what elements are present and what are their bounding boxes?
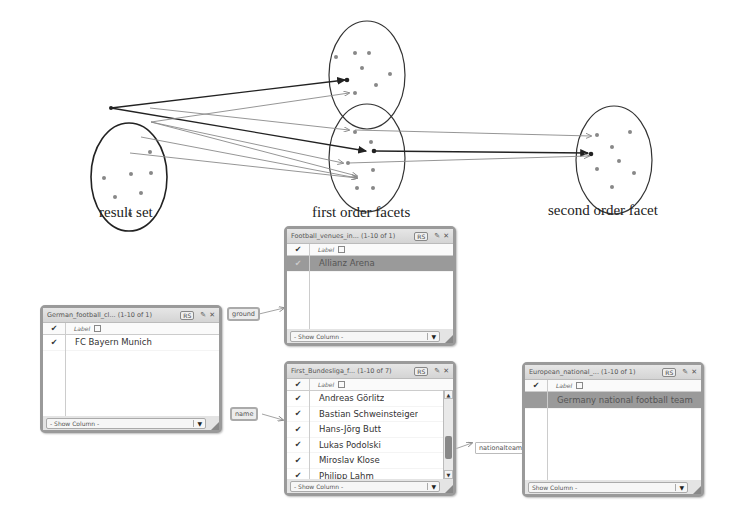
facet-footer: Show Column - ▼ [525, 480, 701, 494]
facet-list: ✔ FC Bayern Munich [43, 335, 219, 420]
chevron-down-icon: ▼ [427, 333, 436, 340]
facet-header[interactable]: German_football_cl... (1-10 of 1) RS ✎ ✕ [43, 308, 219, 323]
column-header: ✔ Label [43, 323, 219, 335]
resize-handle[interactable] [693, 486, 701, 494]
chevron-down-icon: ▼ [427, 483, 436, 490]
facet-list: Germany national football team [525, 392, 701, 485]
resize-handle[interactable] [211, 422, 219, 430]
show-column-dropdown[interactable]: - Show Column - ▼ [290, 331, 440, 342]
rs-button[interactable]: RS [180, 311, 194, 320]
facet-title: First_Bundesliga_f... (1-10 of 7) [291, 367, 411, 375]
column-label[interactable]: Label [548, 382, 572, 389]
second-order-facet-circle [576, 106, 652, 214]
check-icon[interactable]: ✔ [287, 438, 310, 453]
facet-footer: - Show Column - ▼ [287, 479, 453, 493]
list-item-selected[interactable]: Germany national football team [525, 392, 701, 409]
facet-header[interactable]: European_national_... (1-10 of 1) RS ✎ ✕ [525, 365, 701, 380]
facet-header[interactable]: First_Bundesliga_f... (1-10 of 7) RS ✎ ✕ [287, 364, 453, 379]
check-all-icon[interactable]: ✔ [287, 244, 310, 255]
facet-title: German_football_cl... (1-10 of 1) [47, 311, 177, 319]
list-item[interactable]: ✔Lukas Podolski [287, 438, 453, 454]
pin-icon[interactable]: ✎ [682, 368, 688, 376]
column-label[interactable]: Label [310, 246, 334, 253]
check-icon[interactable]: ✔ [287, 453, 310, 468]
sort-icon[interactable] [338, 246, 345, 253]
facet-pane-football-venues[interactable]: Football_venues_in... (1-10 of 1) RS ✎ ✕… [284, 226, 456, 346]
check-all-icon[interactable]: ✔ [525, 380, 548, 391]
check-icon[interactable]: ✔ [287, 391, 310, 406]
close-icon[interactable]: ✕ [443, 367, 449, 375]
list-item[interactable]: ✔Bastian Schweinsteiger [287, 407, 453, 423]
list-item[interactable]: ✔Andreas Görlitz [287, 391, 453, 407]
close-icon[interactable]: ✕ [209, 311, 215, 319]
list-item-selected[interactable]: ✔ Allianz Arena [287, 256, 453, 272]
resize-handle[interactable] [445, 335, 453, 343]
caption-result-set: result set [99, 204, 153, 221]
show-column-dropdown[interactable]: - Show Column - ▼ [290, 481, 440, 492]
check-all-icon[interactable]: ✔ [287, 379, 310, 390]
close-icon[interactable]: ✕ [691, 368, 697, 376]
check-icon[interactable]: ✔ [43, 335, 66, 350]
column-header: ✔ Label [287, 379, 453, 391]
rs-button[interactable]: RS [414, 232, 428, 241]
sort-icon[interactable] [576, 382, 583, 389]
first-order-facet-circle-top [329, 21, 405, 129]
pin-icon[interactable]: ✎ [200, 311, 206, 319]
facet-footer: - Show Column - ▼ [287, 329, 453, 343]
check-icon[interactable]: ✔ [287, 422, 310, 437]
caption-first-order-facets: first order facets [312, 204, 410, 221]
pin-icon[interactable]: ✎ [434, 232, 440, 240]
list-item[interactable]: ✔Miroslav Klose [287, 453, 453, 469]
facet-pane-bundesliga-players[interactable]: First_Bundesliga_f... (1-10 of 7) RS ✎ ✕… [284, 361, 456, 496]
rs-button[interactable]: RS [662, 368, 676, 377]
vertical-scrollbar[interactable]: ▲ ▼ [443, 390, 453, 479]
chevron-down-icon: ▼ [675, 484, 684, 491]
check-all-icon[interactable]: ✔ [43, 323, 66, 334]
sort-icon[interactable] [94, 325, 101, 332]
scroll-up-icon[interactable]: ▲ [444, 390, 453, 399]
column-header: ✔ Label [525, 380, 701, 392]
check-icon[interactable] [525, 392, 548, 408]
column-header: ✔ Label [287, 244, 453, 256]
edge-label-name[interactable]: name [230, 407, 258, 421]
list-item[interactable]: ✔ FC Bayern Munich [43, 335, 219, 351]
column-label[interactable]: Label [310, 381, 334, 388]
scroll-down-icon[interactable]: ▼ [444, 470, 453, 479]
show-column-dropdown[interactable]: - Show Column - ▼ [46, 418, 206, 429]
edge-label-nationalteam[interactable]: nationalteam [475, 442, 526, 454]
pin-icon[interactable]: ✎ [434, 367, 440, 375]
facet-pane-european-national[interactable]: European_national_... (1-10 of 1) RS ✎ ✕… [522, 362, 704, 497]
facet-footer: - Show Column - ▼ [43, 416, 219, 430]
facet-header[interactable]: Football_venues_in... (1-10 of 1) RS ✎ ✕ [287, 229, 453, 244]
first-order-facet-circle-bottom [329, 104, 405, 212]
chevron-down-icon: ▼ [193, 420, 202, 427]
facet-list: ✔ Allianz Arena [287, 256, 453, 334]
sort-icon[interactable] [338, 381, 345, 388]
rs-button[interactable]: RS [414, 367, 428, 376]
column-label[interactable]: Label [66, 325, 90, 332]
scroll-thumb[interactable] [445, 436, 452, 459]
facet-title: Football_venues_in... (1-10 of 1) [291, 232, 411, 240]
check-icon[interactable]: ✔ [287, 407, 310, 422]
facet-title: European_national_... (1-10 of 1) [529, 368, 659, 376]
check-icon[interactable]: ✔ [287, 256, 310, 271]
edge-label-ground[interactable]: ground [227, 307, 260, 321]
show-column-dropdown[interactable]: Show Column - ▼ [528, 482, 688, 493]
list-item[interactable]: ✔Hans-Jörg Butt [287, 422, 453, 438]
facet-list: ✔Andreas Görlitz ✔Bastian Schweinsteiger… [287, 391, 453, 481]
resize-handle[interactable] [445, 485, 453, 493]
close-icon[interactable]: ✕ [443, 232, 449, 240]
facet-pane-german-clubs[interactable]: German_football_cl... (1-10 of 1) RS ✎ ✕… [40, 305, 222, 433]
caption-second-order-facet: second order facet [548, 202, 658, 219]
